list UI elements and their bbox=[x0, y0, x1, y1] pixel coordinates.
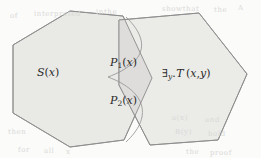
diagram-canvas: S(x) P1(x) P2(x) ∃y.T(x,y) bbox=[0, 0, 261, 158]
label-s-of-x: S(x) bbox=[37, 66, 59, 79]
label-p1-of-x: P1(x) bbox=[109, 56, 137, 70]
set-diagram-figure: S(x) P1(x) P2(x) ∃y.T(x,y) showthattheAo… bbox=[0, 0, 261, 158]
label-p2-of-x: P2(x) bbox=[109, 94, 137, 108]
